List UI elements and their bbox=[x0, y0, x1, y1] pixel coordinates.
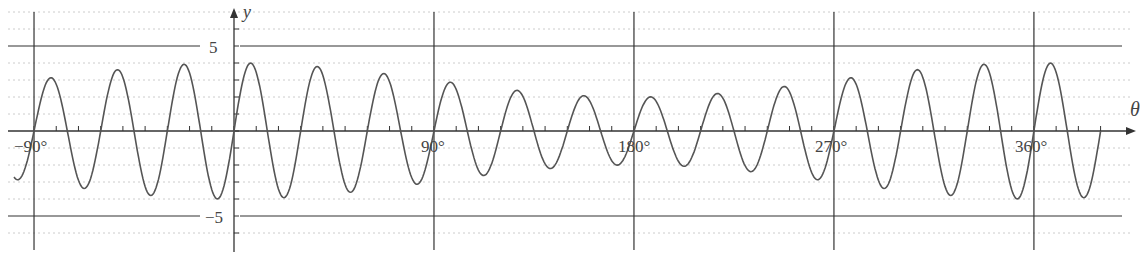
y-axis-label: y bbox=[241, 2, 251, 22]
x-axis-label: θ bbox=[1130, 98, 1140, 120]
y-tick-5: 5 bbox=[209, 38, 218, 57]
chart: θ y 5 −5 −90° 90° 180° 270° 360° bbox=[0, 0, 1144, 258]
x-tick-360: 360° bbox=[1015, 137, 1047, 156]
y-tick-neg5: −5 bbox=[205, 208, 223, 227]
x-tick-neg90: −90° bbox=[14, 137, 47, 156]
x-tick-270: 270° bbox=[815, 137, 847, 156]
plot-area: θ y 5 −5 −90° 90° 180° 270° 360° bbox=[0, 0, 1144, 258]
x-tick-180: 180° bbox=[618, 137, 650, 156]
x-tick-90: 90° bbox=[421, 137, 445, 156]
